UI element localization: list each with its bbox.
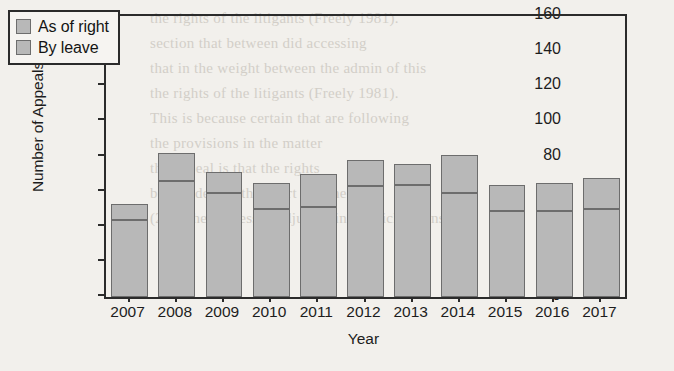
bar-segment-as-of-right (111, 204, 148, 220)
bar-group (206, 172, 243, 297)
x-tick-label: 2010 (252, 303, 286, 321)
plot-area (104, 14, 627, 299)
bar-segment-by-leave (111, 220, 148, 297)
as-of-right-swatch-icon (16, 19, 31, 34)
chart-figure: Number of Appeals Year 02040608010012014… (0, 0, 674, 371)
legend-item-by-leave: By leave (16, 37, 109, 58)
legend-item-as-of-right: As of right (16, 16, 109, 37)
bar-group (300, 174, 337, 297)
bar-group (158, 153, 195, 297)
x-axis-title: Year (104, 330, 623, 348)
x-tick-label: 2015 (488, 303, 522, 321)
bar-segment-by-leave (583, 209, 620, 297)
bar-group (394, 164, 431, 297)
bar-segment-as-of-right (489, 185, 526, 211)
bar-segment-as-of-right (394, 164, 431, 185)
bar-group (583, 178, 620, 297)
bar-segment-as-of-right (583, 178, 620, 210)
bar-group (489, 185, 526, 297)
bar-segment-as-of-right (300, 174, 337, 207)
x-tick-label: 2007 (110, 303, 144, 321)
x-tick-label: 2016 (535, 303, 569, 321)
bar-segment-as-of-right (347, 160, 384, 186)
bar-segment-by-leave (158, 181, 195, 297)
x-tick-label: 2013 (393, 303, 427, 321)
bar-segment-by-leave (206, 193, 243, 297)
legend-label-as-of-right: As of right (38, 18, 109, 36)
by-leave-swatch-icon (16, 40, 31, 55)
chart-legend: As of right By leave (8, 10, 120, 65)
bar-segment-as-of-right (158, 153, 195, 181)
bar-segment-by-leave (253, 209, 290, 297)
x-tick-label: 2012 (346, 303, 380, 321)
bar-segment-by-leave (347, 186, 384, 297)
bar-segment-as-of-right (441, 155, 478, 194)
bar-group (536, 183, 573, 297)
x-tick-label: 2009 (205, 303, 239, 321)
bar-group (441, 155, 478, 297)
legend-label-by-leave: By leave (38, 39, 99, 57)
x-tick-label: 2011 (300, 303, 333, 321)
bar-segment-by-leave (300, 207, 337, 297)
x-tick-label: 2008 (158, 303, 192, 321)
bar-group (253, 183, 290, 297)
bar-segment-by-leave (441, 193, 478, 297)
bar-group (347, 160, 384, 297)
bar-group (111, 204, 148, 297)
bar-segment-as-of-right (253, 183, 290, 209)
x-tick-label: 2017 (582, 303, 616, 321)
bar-segment-by-leave (394, 185, 431, 297)
bar-segment-by-leave (489, 211, 526, 297)
bar-segment-by-leave (536, 211, 573, 297)
bar-segment-as-of-right (206, 172, 243, 193)
bar-segment-as-of-right (536, 183, 573, 211)
x-tick-label: 2014 (441, 303, 475, 321)
